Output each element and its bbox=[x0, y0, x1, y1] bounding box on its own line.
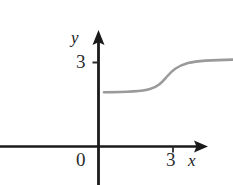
y-axis-tick-label-3: 3 bbox=[76, 52, 86, 71]
x-axis-label: x bbox=[188, 152, 196, 169]
plot-canvas bbox=[0, 0, 233, 185]
sigmoid-curve bbox=[104, 60, 233, 93]
graph-figure: y x 3 3 0 bbox=[0, 0, 233, 185]
origin-label: 0 bbox=[76, 150, 86, 169]
x-axis-tick-label-3: 3 bbox=[166, 150, 176, 169]
y-axis-label: y bbox=[71, 29, 79, 46]
